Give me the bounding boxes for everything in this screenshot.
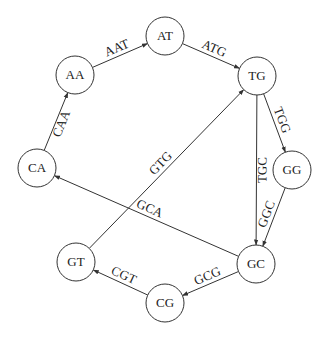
node-gt: GT: [57, 243, 95, 281]
edge-label: GCG: [192, 263, 223, 288]
edge-label: CAA: [49, 107, 73, 139]
node-at: AT: [146, 17, 184, 55]
node-label: TG: [248, 68, 265, 83]
node-label: CA: [28, 160, 47, 175]
edge-label: TGC: [254, 157, 269, 183]
edge-label: TGG: [271, 105, 294, 135]
node-label: AA: [66, 67, 85, 82]
node-ca: CA: [18, 149, 56, 187]
node-gg: GG: [273, 151, 311, 189]
node-gc: GC: [237, 245, 275, 283]
node-label: CG: [156, 295, 174, 310]
de-bruijn-graph: CAAAATATGTGGTGCGGCGCAGCGCGTGTG ATAATGCAG…: [0, 0, 330, 340]
node-cg: CG: [146, 284, 184, 322]
node-label: AT: [157, 28, 173, 43]
edge-label: GCA: [134, 196, 166, 221]
node-label: GC: [247, 256, 265, 271]
edge-label: AAT: [102, 36, 131, 60]
edge-label: CGT: [109, 263, 139, 288]
edge-label: GGC: [254, 198, 278, 229]
edge-label: GTG: [146, 148, 175, 178]
node-label: GG: [283, 162, 302, 177]
edge-label: ATG: [200, 36, 229, 60]
node-aa: AA: [56, 56, 94, 94]
node-tg: TG: [238, 57, 276, 95]
node-label: GT: [67, 254, 84, 269]
